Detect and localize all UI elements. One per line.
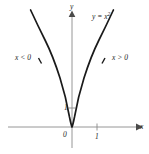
y-axis-tick-label-1: 1 <box>64 104 68 112</box>
x-axis <box>8 124 143 131</box>
x-axis-label: x <box>140 123 143 131</box>
plot-canvas <box>0 0 149 154</box>
origin-label: 0 <box>63 131 67 139</box>
y-axis-label: y <box>70 3 73 11</box>
curve-equation-exponent: 2 <box>107 11 110 17</box>
annotation-x-positive: x > 0 <box>112 54 128 62</box>
y-axis-arrowhead <box>69 11 76 18</box>
curve-equation-label: y = x2 <box>92 13 110 21</box>
function-graph-figure: y = x2 x < 0 x > 0 y x 1 1 0 <box>0 0 149 154</box>
annotation-x-negative: x < 0 <box>15 54 31 62</box>
curve-equation-base: y = x <box>92 12 107 21</box>
curve-marker-left <box>39 58 42 64</box>
x-axis-tick-label-1: 1 <box>95 133 99 141</box>
curve-marker-right <box>102 58 105 64</box>
